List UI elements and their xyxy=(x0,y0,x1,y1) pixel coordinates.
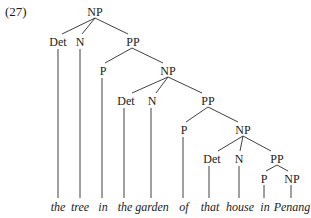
branch-pp2-np3 xyxy=(208,107,238,122)
word: Penang xyxy=(273,200,311,214)
branch-np1-n1 xyxy=(82,18,95,34)
branch-pp1-np2 xyxy=(132,48,163,63)
node-det: Det xyxy=(203,152,221,166)
node-n: N xyxy=(76,35,85,49)
branch-pp2-p2 xyxy=(186,107,208,122)
word: house xyxy=(226,200,255,214)
branch-np2-pp2 xyxy=(168,77,202,93)
node-np: NP xyxy=(284,172,300,186)
branch-np3-det3 xyxy=(218,136,243,151)
node-np: NP xyxy=(235,123,251,137)
tree-svg: (27) xyxy=(0,0,311,218)
word: of xyxy=(179,200,190,214)
node-pp: PP xyxy=(126,35,140,49)
node-n: N xyxy=(235,152,244,166)
node-p: P xyxy=(181,123,188,137)
tree-terminal-words: the tree in the garden of that house in … xyxy=(51,200,311,214)
node-p: P xyxy=(100,64,107,78)
word: in xyxy=(260,200,269,214)
example-number: (27) xyxy=(5,4,27,19)
word: in xyxy=(98,200,107,214)
branch-np3-n3 xyxy=(240,136,243,151)
node-pp: PP xyxy=(270,152,284,166)
node-p: P xyxy=(261,172,268,186)
node-n: N xyxy=(148,94,157,108)
tree-node-labels: NP Det N PP P NP Det N PP P NP Det N PP … xyxy=(49,5,300,186)
node-np: NP xyxy=(160,64,176,78)
word: garden xyxy=(135,200,169,214)
word: the xyxy=(118,200,133,214)
node-det: Det xyxy=(117,94,135,108)
syntax-tree-diagram: (27) xyxy=(0,0,311,218)
tree-branches xyxy=(58,18,291,198)
branch-pp1-p1 xyxy=(105,48,132,63)
branch-np2-det2 xyxy=(132,77,168,93)
node-det: Det xyxy=(49,35,67,49)
node-np: NP xyxy=(87,5,103,19)
word: the xyxy=(51,200,66,214)
word: tree xyxy=(71,200,90,214)
branch-np1-det1 xyxy=(62,18,95,34)
branch-np1-pp1 xyxy=(95,18,128,34)
branch-np3-pp3 xyxy=(243,136,271,151)
word: that xyxy=(201,200,220,214)
node-pp: PP xyxy=(201,94,215,108)
